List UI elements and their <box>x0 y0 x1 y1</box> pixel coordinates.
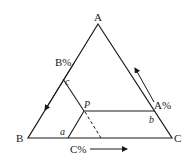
point-p-label: P <box>83 99 90 110</box>
point-b-label: b <box>149 114 154 125</box>
axis-b-percent-label: B% <box>55 56 72 68</box>
point-c-label: c <box>65 76 70 87</box>
vertex-c-label: C <box>174 132 181 144</box>
axis-a-percent-label: A% <box>154 99 171 111</box>
vertex-b-label: B <box>16 132 23 144</box>
point-a-label: a <box>60 126 65 137</box>
line-p-to-a <box>68 111 84 138</box>
vertex-a-label: A <box>94 11 102 23</box>
ternary-diagram: A B C B% A% C% P c a b <box>0 0 192 158</box>
b-percent-arrow <box>45 63 74 110</box>
axis-c-percent-label: C% <box>70 143 87 155</box>
dashed-line-p <box>85 112 101 138</box>
